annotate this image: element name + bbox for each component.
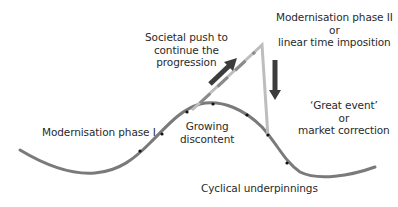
- label-modernisation-phase-1: Modernisation phase I: [42, 126, 156, 139]
- label-great-event: ‘Great event’ or market correction: [298, 99, 390, 137]
- label-line: ‘Great event’: [298, 99, 390, 112]
- label-line: continue the: [145, 44, 228, 57]
- label-line: progression: [145, 56, 228, 69]
- label-line: market correction: [298, 124, 390, 137]
- label-modernisation-phase-2: Modernisation phase II or linear time im…: [276, 11, 393, 49]
- label-text: Cyclical underpinnings: [201, 182, 318, 195]
- label-line: or: [298, 112, 390, 125]
- label-line: or: [276, 24, 393, 37]
- label-line: linear time imposition: [276, 36, 393, 49]
- label-line: Societal push to: [145, 31, 228, 44]
- label-societal-push: Societal push to continue the progressio…: [145, 31, 228, 69]
- label-cyclical-underpinnings: Cyclical underpinnings: [201, 182, 318, 195]
- label-growing-discontent: Growing discontent: [180, 120, 234, 145]
- label-text: Modernisation phase I: [42, 126, 156, 139]
- label-line: Growing: [180, 120, 234, 133]
- label-line: Modernisation phase II: [276, 11, 393, 24]
- arrow-down-icon: [269, 60, 281, 100]
- label-line: discontent: [180, 133, 234, 146]
